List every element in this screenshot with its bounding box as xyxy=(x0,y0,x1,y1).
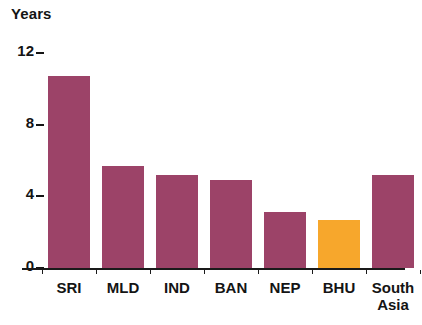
y-tick-label: 4 xyxy=(26,186,34,201)
x-axis-label-ban: BAN xyxy=(203,279,259,296)
x-axis-label-mld: MLD xyxy=(95,279,151,296)
x-tick-mark xyxy=(420,270,421,274)
y-tick-dash xyxy=(36,52,44,54)
x-axis-label-nep: NEP xyxy=(257,279,313,296)
bar-ind xyxy=(156,175,198,268)
x-axis-baseline xyxy=(22,268,405,270)
bar-ban xyxy=(210,180,252,268)
x-axis-label-ind: IND xyxy=(149,279,205,296)
y-tick-dash xyxy=(36,124,44,126)
x-tick-mark xyxy=(96,270,97,274)
bar-mld xyxy=(102,166,144,268)
bar-nep xyxy=(264,212,306,268)
y-tick-label: 8 xyxy=(26,115,34,130)
bar-south-asia xyxy=(372,175,414,268)
x-tick-mark xyxy=(204,270,205,274)
x-tick-mark xyxy=(42,270,43,274)
bar-chart: Years 04812 SRIMLDINDBANNEPBHUSouth Asia xyxy=(0,0,422,325)
y-tick-label: 0 xyxy=(26,258,34,273)
x-axis-label-sri: SRI xyxy=(41,279,97,296)
bar-bhu xyxy=(318,220,360,268)
plot-area: 04812 SRIMLDINDBANNEPBHUSouth Asia xyxy=(0,0,422,325)
x-tick-mark xyxy=(366,270,367,274)
y-tick-dash xyxy=(36,195,44,197)
x-axis-label-bhu: BHU xyxy=(311,279,367,296)
x-tick-mark xyxy=(258,270,259,274)
y-tick-label: 12 xyxy=(17,43,34,58)
x-tick-mark xyxy=(150,270,151,274)
x-axis-label-south-asia: South Asia xyxy=(365,279,421,313)
bar-sri xyxy=(48,76,90,268)
x-tick-mark xyxy=(312,270,313,274)
